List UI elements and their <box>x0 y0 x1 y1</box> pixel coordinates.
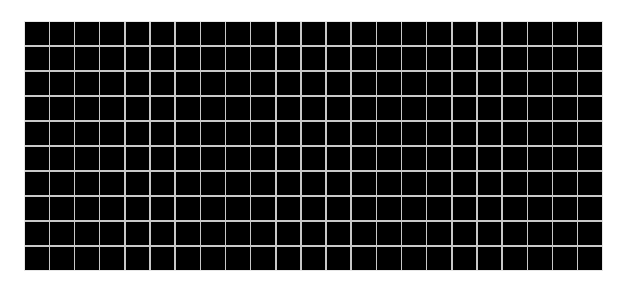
grid-cell <box>201 97 225 120</box>
grid-cell <box>578 97 602 120</box>
grid-cell <box>126 72 150 95</box>
grid-cell <box>453 97 477 120</box>
grid-cell <box>126 172 150 195</box>
grid-cell <box>427 172 451 195</box>
grid-cell <box>151 222 175 245</box>
grid-cell <box>151 147 175 170</box>
grid-cell <box>25 47 49 70</box>
grid-cell <box>402 197 426 220</box>
grid-cell <box>352 47 376 70</box>
grid-cell <box>50 22 74 45</box>
grid-cell <box>277 97 301 120</box>
grid-cell <box>553 172 577 195</box>
grid-cell <box>402 172 426 195</box>
grid-cell <box>126 247 150 270</box>
grid-cell <box>151 97 175 120</box>
grid-cell <box>277 22 301 45</box>
grid-cell <box>50 47 74 70</box>
grid-cell <box>302 222 326 245</box>
grid-cell <box>201 222 225 245</box>
grid-cell <box>302 47 326 70</box>
grid-cell <box>578 222 602 245</box>
grid-cell <box>25 22 49 45</box>
grid-cell <box>251 247 275 270</box>
grid-cell <box>126 22 150 45</box>
grid-cell <box>427 97 451 120</box>
grid-cell <box>402 222 426 245</box>
grid-cell <box>453 197 477 220</box>
grid-cell <box>377 247 401 270</box>
grid-cell <box>327 72 351 95</box>
grid-cell <box>176 22 200 45</box>
grid-cell <box>578 72 602 95</box>
grid-cell <box>427 122 451 145</box>
grid-cell <box>100 97 124 120</box>
grid-cell <box>553 72 577 95</box>
grid-cell <box>402 247 426 270</box>
grid-cell <box>176 197 200 220</box>
grid-cell <box>50 122 74 145</box>
grid-cell <box>25 147 49 170</box>
grid-cell <box>176 172 200 195</box>
grid-cell <box>377 147 401 170</box>
grid-cell <box>302 122 326 145</box>
grid-cell <box>251 122 275 145</box>
grid-cell <box>201 47 225 70</box>
grid-cell <box>427 47 451 70</box>
grid-cell <box>503 22 527 45</box>
grid-cell <box>327 147 351 170</box>
grid-cell <box>251 197 275 220</box>
grid-cell <box>327 172 351 195</box>
grid-cell <box>478 97 502 120</box>
grid-cell <box>277 247 301 270</box>
grid-cell <box>327 47 351 70</box>
grid-cell <box>100 22 124 45</box>
grid-cell <box>126 222 150 245</box>
grid-cell <box>277 147 301 170</box>
grid-cell <box>176 122 200 145</box>
grid-cell <box>226 147 250 170</box>
grid-cell <box>578 172 602 195</box>
grid-cell <box>453 47 477 70</box>
grid-cell <box>251 147 275 170</box>
grid-cell <box>453 172 477 195</box>
grid-cell <box>75 147 99 170</box>
grid-cell <box>352 247 376 270</box>
grid-cell <box>402 22 426 45</box>
grid-cell <box>226 97 250 120</box>
grid-cell <box>352 172 376 195</box>
grid-cell <box>478 72 502 95</box>
grid-cell <box>25 222 49 245</box>
grid-cell <box>151 22 175 45</box>
grid-cell <box>478 197 502 220</box>
grid-cell <box>201 197 225 220</box>
grid-cell <box>528 97 552 120</box>
grid-cell <box>478 172 502 195</box>
grid-cell <box>100 47 124 70</box>
grid-cell <box>377 72 401 95</box>
grid-cell <box>75 222 99 245</box>
grid-cell <box>226 247 250 270</box>
grid-cell <box>277 172 301 195</box>
grid-cell <box>553 22 577 45</box>
grid-cell <box>251 97 275 120</box>
grid-cell <box>327 197 351 220</box>
grid-cell <box>226 197 250 220</box>
grid-cell <box>50 72 74 95</box>
grid-cell <box>75 72 99 95</box>
grid-cell <box>427 22 451 45</box>
grid-cell <box>478 122 502 145</box>
grid-cell <box>176 147 200 170</box>
grid-cell <box>50 222 74 245</box>
grid-cell <box>302 197 326 220</box>
grid-cell <box>503 97 527 120</box>
grid-cell <box>327 247 351 270</box>
grid-cell <box>226 122 250 145</box>
grid-cell <box>478 47 502 70</box>
grid-cell <box>352 72 376 95</box>
grid-cell <box>75 197 99 220</box>
grid-cell <box>100 222 124 245</box>
grid-cell <box>503 122 527 145</box>
grid-cell <box>553 122 577 145</box>
grid-cell <box>427 222 451 245</box>
